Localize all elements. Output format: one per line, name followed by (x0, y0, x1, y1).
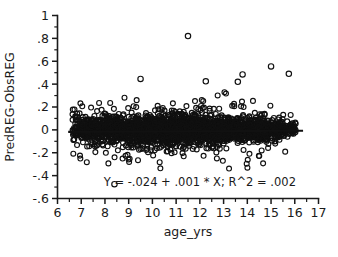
x-tick-label: 16 (287, 205, 303, 220)
y-tick-label: .8 (37, 31, 49, 46)
x-tick-label: 12 (192, 205, 208, 220)
x-tick-label: 15 (263, 205, 279, 220)
x-tick-label: 13 (216, 205, 232, 220)
x-tick-label: 9 (125, 205, 133, 220)
data-points-layer (70, 33, 298, 187)
y-tick-label: -.6 (33, 191, 49, 206)
y-tick-label: .2 (37, 99, 49, 114)
x-tick-label: 17 (311, 205, 327, 220)
x-tick-label: 6 (54, 205, 62, 220)
scatter-plot-figure: 1.8.6.4.20-.2-.4-.667891011121314151617a… (0, 0, 338, 257)
chart-canvas: 1.8.6.4.20-.2-.4-.667891011121314151617a… (0, 0, 338, 257)
outlier-point (240, 72, 245, 77)
outlier-point (185, 33, 190, 38)
x-tick-label: 11 (168, 205, 184, 220)
outlier-point (235, 79, 240, 84)
x-tick-label: 14 (239, 205, 255, 220)
outlier-point (203, 79, 208, 84)
y-tick-label: .4 (37, 77, 49, 92)
outlier-point (138, 76, 143, 81)
y-axis-title: PredREG-ObsREG (2, 52, 17, 162)
x-tick-label: 7 (77, 205, 85, 220)
y-tick-label: -.4 (33, 168, 49, 183)
regression-line (68, 131, 303, 132)
x-tick-label: 8 (101, 205, 109, 220)
y-tick-label: 1 (41, 8, 49, 23)
outlier-point (286, 71, 291, 76)
outlier-point (268, 64, 273, 69)
y-tick-label: -.2 (33, 145, 49, 160)
y-tick-label: 0 (41, 122, 49, 137)
x-tick-label: 10 (144, 205, 160, 220)
x-axis-title: age_yrs (164, 224, 213, 239)
y-tick-label: .6 (37, 54, 49, 69)
regression-equation-annotation: Y = -.024 + .001 * X; R^2 = .002 (103, 175, 296, 189)
